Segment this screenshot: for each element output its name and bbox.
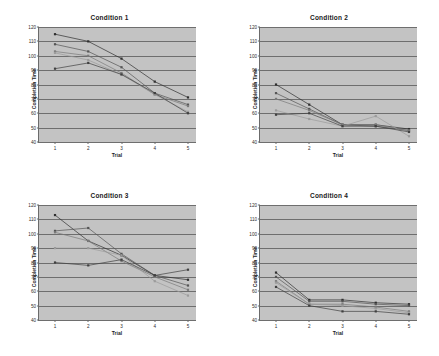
x-axis-tick-label: 1	[275, 324, 278, 329]
series-marker	[120, 254, 122, 256]
y-axis-tick-label: 60	[31, 111, 36, 116]
chart-panel-condition-2: Condition 2 Completion Time 120110100908…	[219, 0, 439, 178]
y-axis-tick-label: 90	[252, 68, 257, 73]
y-axis-tick-label: 40	[252, 318, 257, 323]
x-axis-tick-mark	[276, 142, 277, 144]
x-axis-tick-mark	[188, 142, 189, 144]
y-axis-tick-label: 120	[28, 25, 36, 30]
series-marker	[187, 269, 189, 271]
x-axis-tick-mark	[375, 320, 376, 322]
x-axis-label: Trial	[38, 330, 196, 336]
series-line	[276, 85, 409, 130]
series-marker	[275, 282, 277, 284]
series-line	[276, 113, 409, 132]
series-marker	[408, 131, 410, 133]
x-axis-tick-mark	[88, 142, 89, 144]
y-axis-tick-label: 40	[31, 140, 36, 145]
x-axis-tick-label: 4	[374, 146, 377, 151]
y-axis-tick-label: 50	[31, 303, 36, 308]
x-axis-tick-label: 3	[120, 146, 123, 151]
x-axis-tick-label: 3	[120, 324, 123, 329]
y-axis-tick-label: 110	[250, 39, 257, 44]
series-layer	[39, 205, 196, 320]
y-axis-tick-label: 110	[29, 39, 36, 44]
x-axis-tick-mark	[409, 142, 410, 144]
series-marker	[187, 96, 189, 98]
series-marker	[120, 73, 122, 75]
series-marker	[375, 125, 377, 127]
x-axis-tick-mark	[409, 320, 410, 322]
chart-grid: Condition 1 Completion Time 120110100908…	[0, 0, 439, 356]
x-axis-tick-label: 2	[87, 146, 90, 151]
y-axis-tick-label: 70	[31, 96, 36, 101]
y-axis-tick-label: 110	[29, 217, 36, 222]
series-line	[55, 34, 188, 97]
series-line	[276, 281, 409, 311]
series-marker	[54, 33, 56, 35]
x-axis-tick-mark	[154, 142, 155, 144]
series-marker	[87, 227, 89, 229]
y-axis-tick-label: 80	[252, 260, 257, 265]
series-marker	[187, 105, 189, 107]
series-marker	[87, 55, 89, 57]
series-marker	[154, 274, 156, 276]
chart-panel-condition-3: Condition 3 Completion Time 120110100908…	[0, 178, 219, 356]
x-axis-tick-label: 4	[374, 324, 377, 329]
series-marker	[54, 52, 56, 54]
series-marker	[308, 305, 310, 307]
x-axis-tick-label: 2	[308, 146, 311, 151]
series-line	[55, 215, 188, 280]
y-axis-tick-label: 40	[252, 140, 257, 145]
series-marker	[341, 125, 343, 127]
y-axis-tick-label: 80	[31, 260, 36, 265]
y-axis-tick-label: 100	[28, 231, 36, 236]
series-marker	[154, 92, 156, 94]
chart-title: Condition 4	[219, 192, 439, 199]
gridline	[39, 320, 196, 321]
x-axis-tick-mark	[309, 320, 310, 322]
x-axis-tick-label: 1	[275, 146, 278, 151]
series-layer	[39, 27, 196, 142]
series-marker	[308, 109, 310, 111]
series-marker	[154, 280, 156, 282]
series-marker	[308, 112, 310, 114]
y-axis-tick-label: 120	[249, 203, 257, 208]
x-axis-tick-label: 1	[54, 146, 57, 151]
chart-panel-condition-4: Condition 4 Completion Time 120110100908…	[219, 178, 439, 356]
y-axis-label: Completion Time	[252, 247, 258, 287]
y-axis-tick-label: 50	[31, 125, 36, 130]
chart-title: Condition 1	[0, 14, 219, 21]
series-marker	[275, 92, 277, 94]
x-axis-tick-mark	[342, 142, 343, 144]
series-marker	[154, 81, 156, 83]
y-axis-tick-label: 100	[28, 53, 36, 58]
y-axis-tick-label: 120	[28, 203, 36, 208]
x-axis-tick-mark	[154, 320, 155, 322]
series-marker	[275, 109, 277, 111]
chart-panel-condition-1: Condition 1 Completion Time 120110100908…	[0, 0, 219, 178]
x-axis-tick-mark	[188, 320, 189, 322]
y-axis-label: Completion Time	[252, 69, 258, 109]
x-axis-tick-label: 5	[408, 324, 411, 329]
plot-area: 12011010090807060504012345	[259, 27, 417, 143]
y-axis-tick-label: 50	[252, 303, 257, 308]
x-axis-tick-label: 4	[153, 324, 156, 329]
x-axis-tick-label: 2	[87, 324, 90, 329]
series-marker	[54, 261, 56, 263]
series-marker	[275, 98, 277, 100]
series-marker	[275, 286, 277, 288]
series-layer	[260, 27, 417, 142]
series-marker	[87, 59, 89, 61]
x-axis-tick-mark	[88, 320, 89, 322]
x-axis-tick-mark	[121, 142, 122, 144]
x-axis-tick-label: 3	[341, 146, 344, 151]
series-marker	[275, 83, 277, 85]
series-marker	[375, 115, 377, 117]
plot-area: 12011010090807060504012345	[38, 205, 196, 321]
y-axis-tick-label: 80	[31, 82, 36, 87]
series-marker	[187, 112, 189, 114]
y-axis-tick-label: 60	[31, 289, 36, 294]
series-marker	[341, 300, 343, 302]
y-axis-tick-label: 70	[252, 274, 257, 279]
series-marker	[87, 264, 89, 266]
